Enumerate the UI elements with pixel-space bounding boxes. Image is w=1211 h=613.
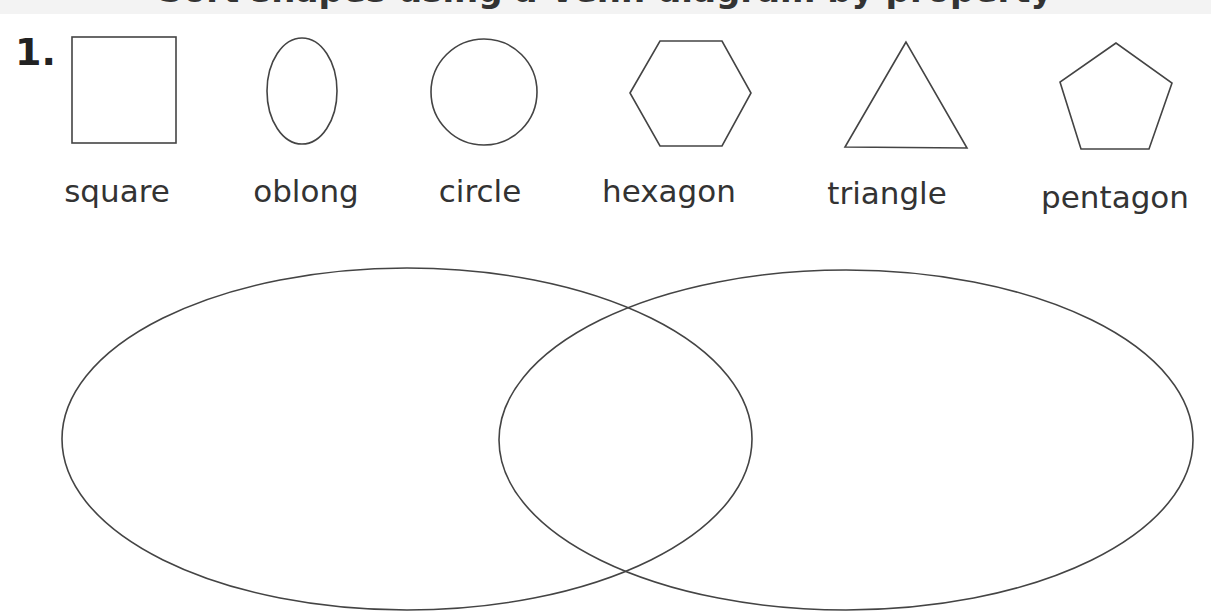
pentagon-shape-icon bbox=[1060, 43, 1172, 149]
shape-label-pentagon: pentagon bbox=[1041, 182, 1189, 213]
shape-label-triangle: triangle bbox=[827, 178, 947, 209]
shape-label-oblong: oblong bbox=[253, 176, 359, 207]
venn-right-circle[interactable] bbox=[499, 270, 1193, 610]
venn-left-circle[interactable] bbox=[62, 268, 752, 610]
hexagon-shape-icon bbox=[630, 41, 751, 146]
triangle-shape-icon bbox=[845, 42, 967, 148]
shape-label-hexagon: hexagon bbox=[602, 176, 736, 207]
square-shape-icon bbox=[72, 37, 176, 143]
shape-label-square: square bbox=[64, 176, 170, 207]
circle-shape-icon bbox=[431, 39, 537, 145]
oblong-shape-icon bbox=[267, 38, 337, 144]
worksheet-drawing bbox=[0, 0, 1211, 613]
shape-label-circle: circle bbox=[439, 176, 521, 207]
